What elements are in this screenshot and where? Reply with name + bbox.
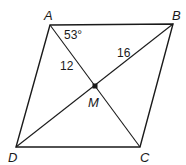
- point-M: [93, 84, 98, 89]
- label-B: B: [172, 8, 181, 23]
- label-D: D: [8, 150, 17, 165]
- label-M: M: [88, 95, 99, 110]
- angle-A-label: 53°: [64, 28, 82, 42]
- parallelogram-diagram: A B C D M 53° 12 16: [0, 0, 186, 165]
- segment-AM-label: 12: [60, 59, 74, 73]
- label-A: A: [43, 8, 53, 23]
- segment-BM-label: 16: [117, 46, 131, 60]
- label-C: C: [140, 150, 150, 165]
